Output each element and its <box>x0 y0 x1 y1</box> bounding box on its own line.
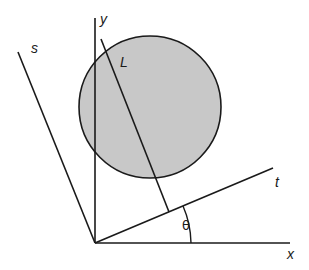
shaded-disk <box>79 36 221 178</box>
y-axis-label: y <box>99 11 108 27</box>
radon-transform-diagram: y x s t L θ <box>0 0 309 270</box>
s-axis-label: s <box>31 40 38 56</box>
t-axis-label: t <box>275 174 280 190</box>
line-L-label: L <box>120 54 128 70</box>
x-axis-label: x <box>286 246 295 262</box>
theta-label: θ <box>182 218 190 233</box>
